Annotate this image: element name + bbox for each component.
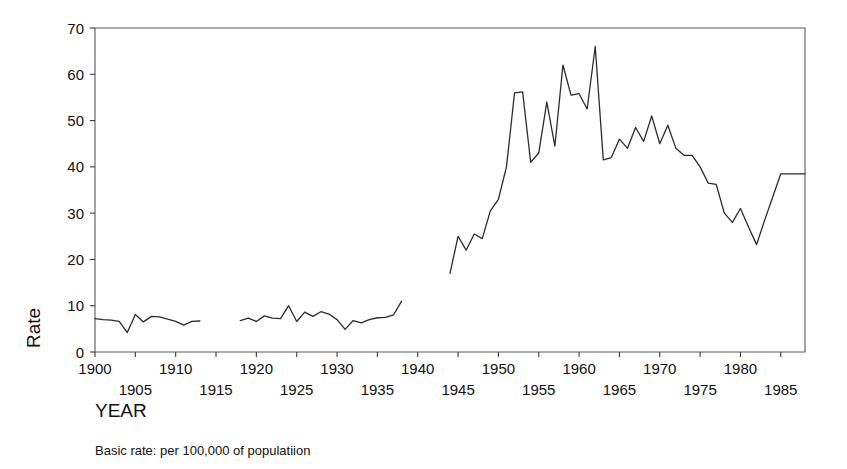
plot-border (95, 28, 805, 352)
x-tick-label-lower: 1925 (280, 381, 313, 398)
x-tick-label-lower: 1945 (441, 381, 474, 398)
x-axis-title: YEAR (95, 400, 147, 421)
y-tick-label: 40 (67, 158, 84, 175)
y-tick-label: 0 (76, 344, 84, 361)
x-tick-label-upper: 1920 (240, 360, 273, 377)
x-tick-label-lower: 1955 (522, 381, 555, 398)
x-axis-tick-labels: 1900191019201930194019501960197019801905… (78, 360, 797, 398)
plot-frame (95, 28, 805, 352)
x-axis-ticks (95, 352, 781, 357)
line-chart: 010203040506070 190019101920193019401950… (0, 0, 847, 469)
x-tick-label-lower: 1985 (764, 381, 797, 398)
y-tick-label: 50 (67, 112, 84, 129)
x-tick-label-upper: 1910 (159, 360, 192, 377)
y-tick-label: 10 (67, 297, 84, 314)
data-series-lines (95, 47, 805, 333)
x-tick-label-lower: 1965 (603, 381, 636, 398)
x-tick-label-lower: 1975 (683, 381, 716, 398)
y-axis-title: Rate (23, 308, 44, 348)
y-tick-label: 70 (67, 20, 84, 37)
y-axis-ticks (90, 28, 95, 352)
data-line-segment (240, 301, 401, 329)
x-tick-label-lower: 1905 (119, 381, 152, 398)
y-tick-label: 60 (67, 66, 84, 83)
y-tick-label: 20 (67, 251, 84, 268)
chart-figure: 010203040506070 190019101920193019401950… (0, 0, 847, 469)
x-tick-label-upper: 1970 (643, 360, 676, 377)
data-line-segment (450, 47, 805, 274)
data-line-segment (95, 315, 200, 333)
x-tick-label-lower: 1935 (361, 381, 394, 398)
x-tick-label-upper: 1900 (78, 360, 111, 377)
x-tick-label-upper: 1950 (482, 360, 515, 377)
x-tick-label-upper: 1930 (320, 360, 353, 377)
y-tick-label: 30 (67, 205, 84, 222)
x-tick-label-lower: 1915 (199, 381, 232, 398)
chart-caption: Basic rate: per 100,000 of populatiion (95, 443, 310, 458)
y-axis-tick-labels: 010203040506070 (67, 20, 84, 361)
x-tick-label-upper: 1980 (724, 360, 757, 377)
x-tick-label-upper: 1960 (562, 360, 595, 377)
x-tick-label-upper: 1940 (401, 360, 434, 377)
